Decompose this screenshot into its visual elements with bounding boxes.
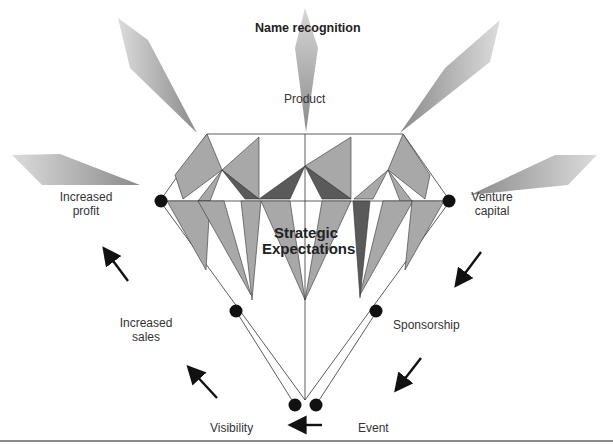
arrow-to-increased-sales xyxy=(193,372,217,398)
node-venture-capital xyxy=(443,195,456,208)
center-label: Strategic Expectations xyxy=(262,225,350,257)
ray-left xyxy=(12,154,140,185)
node-increased-sales xyxy=(230,305,243,318)
diagram-title: Name recognition xyxy=(255,21,361,35)
node-increased-profit xyxy=(155,195,168,208)
label-venture-capital: Venture capital xyxy=(468,190,516,218)
arrow-to-sponsorship xyxy=(460,252,481,280)
label-event: Event xyxy=(358,421,389,435)
label-increased-profit: Increased profit xyxy=(56,190,116,218)
node-visibility xyxy=(289,399,302,412)
ray-top-left xyxy=(118,18,197,133)
ray-top-right xyxy=(400,20,500,133)
facets xyxy=(167,134,444,300)
ray-right xyxy=(470,155,597,195)
arrow-to-increased-profit xyxy=(108,254,128,281)
arrow-to-event xyxy=(400,358,421,385)
node-event xyxy=(310,399,323,412)
label-product: Product xyxy=(284,92,325,106)
label-increased-sales: Increased sales xyxy=(116,316,176,344)
label-sponsorship: Sponsorship xyxy=(393,318,460,332)
label-visibility: Visibility xyxy=(210,421,253,435)
bottom-rule xyxy=(0,440,613,442)
node-sponsorship xyxy=(370,305,383,318)
